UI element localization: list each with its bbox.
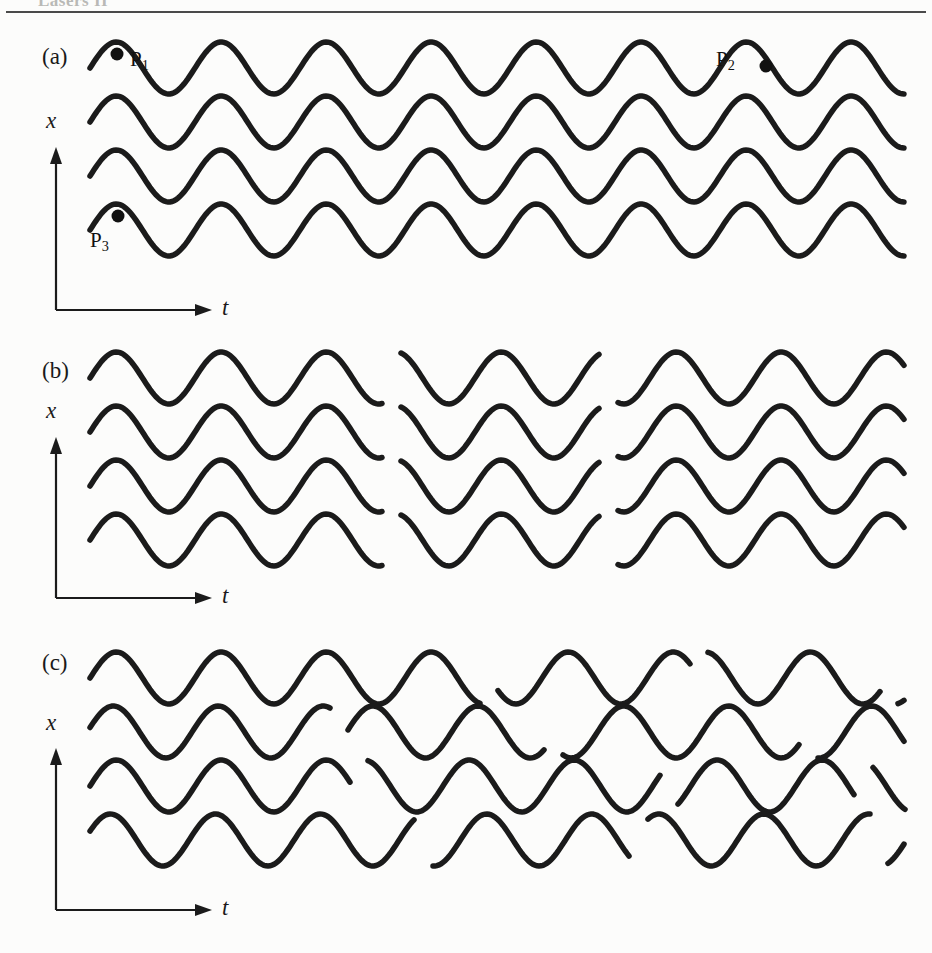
wave-segment — [433, 814, 629, 866]
wave-segment — [818, 706, 904, 758]
panel-c-wave-traces — [0, 0, 932, 953]
wave-segment — [90, 706, 330, 758]
wave-segment — [708, 652, 880, 704]
wave-segment — [90, 760, 350, 812]
wave-segment — [90, 652, 480, 704]
figure-page: Lasers II (a) x t P1 P2 P3 (b) x t (c) x… — [0, 0, 932, 953]
wave-segment — [888, 844, 904, 863]
wave-segment — [563, 706, 799, 758]
wave-segment — [648, 814, 870, 866]
wave-segment — [678, 760, 854, 812]
wave-segment — [498, 652, 690, 704]
wave-segment — [898, 700, 904, 703]
wave-segment — [368, 760, 660, 812]
wave-segment — [90, 814, 414, 866]
wave-segment — [873, 767, 905, 809]
wave-segment — [348, 706, 544, 758]
